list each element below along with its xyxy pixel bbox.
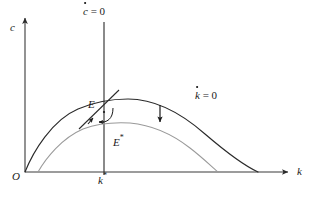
k-star-tick-label: k* [98,173,107,186]
k-dot-symbol: k [195,90,200,101]
k-star-superscript: * [103,171,107,180]
diagram-canvas [0,0,313,197]
inner-curve [38,123,218,172]
equilibrium-label-E: E [88,99,95,110]
k-dot-zero-curve [25,99,258,172]
origin-label: O [12,171,20,182]
dot-accent-icon [85,2,87,4]
x-axis-label: k [297,166,302,177]
figure-caption [0,186,313,197]
c-dot-symbol: c [83,6,88,17]
figure-phase-diagram: c k O k* c = 0 k = 0 E E* [0,0,313,197]
y-axis-label: c [10,22,15,33]
curved-arrow-to-E [99,108,113,122]
dot-accent-icon [197,86,199,88]
E-star-base: E [113,136,120,148]
E-star-superscript: * [120,133,124,142]
k-dot-base: k [195,89,200,101]
k-dot-zero-label: k = 0 [195,90,217,101]
equilibrium-label-E-star: E* [113,135,124,148]
c-dot-rest: = 0 [88,5,105,17]
c-dot-zero-label: c = 0 [83,6,105,17]
k-dot-rest: = 0 [200,89,217,101]
c-dot-base: c [83,5,88,17]
equilibrium-point-E [103,111,105,113]
